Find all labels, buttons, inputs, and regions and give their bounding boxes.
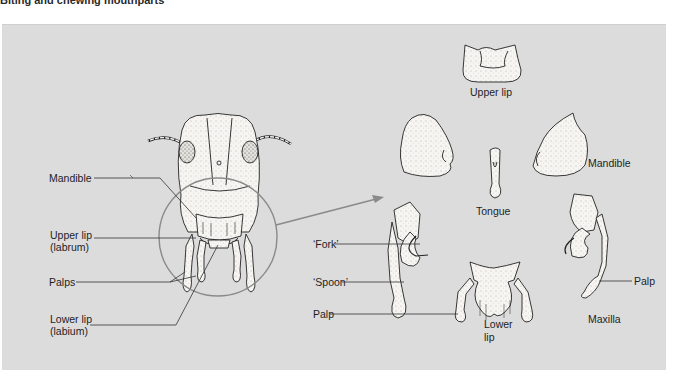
label-lower-lip-part: Lower	[484, 318, 513, 330]
label-palps: Palps	[49, 276, 75, 288]
label-lower-lip-part-2: lip	[484, 331, 495, 343]
mouthparts-illustration	[0, 0, 674, 370]
label-mandible-part: Mandible	[588, 157, 631, 169]
label-maxilla: Maxilla	[588, 313, 621, 325]
label-spoon: ‘Spoon’	[313, 276, 348, 288]
arrow-head-icon	[372, 195, 384, 203]
label-upper-lip-head: Upper lip	[50, 229, 92, 241]
label-palp-left: Palp	[313, 308, 334, 320]
label-fork: ‘Fork’	[313, 238, 339, 250]
label-labrum: (labrum)	[50, 241, 89, 253]
label-lower-lip-head: Lower lip	[50, 313, 92, 325]
label-upper-lip-part: Upper lip	[470, 86, 512, 98]
label-labium: (labium)	[50, 325, 88, 337]
label-palp-right: Palp	[634, 275, 655, 287]
magnify-arrow	[276, 198, 380, 225]
label-mandible-head: Mandible	[49, 172, 92, 184]
label-tongue: Tongue	[476, 205, 510, 217]
